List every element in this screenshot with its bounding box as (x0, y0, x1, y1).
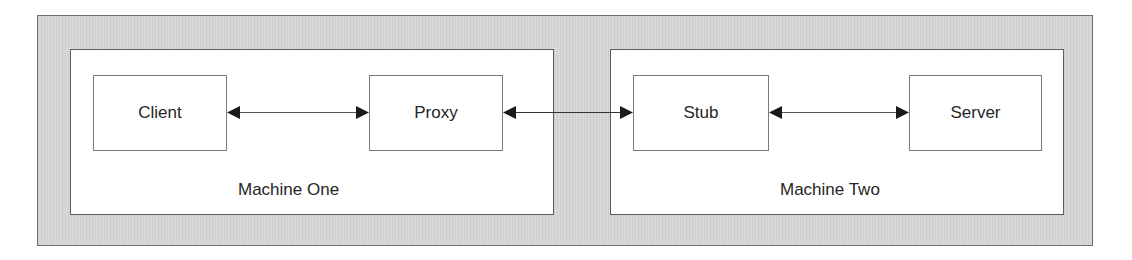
client-node: Client (93, 75, 227, 151)
server-node: Server (909, 75, 1042, 151)
machine-one-label: Machine One (238, 180, 339, 200)
proxy-node: Proxy (369, 75, 503, 151)
stub-node: Stub (633, 75, 769, 151)
machine-two-label: Machine Two (780, 180, 880, 200)
